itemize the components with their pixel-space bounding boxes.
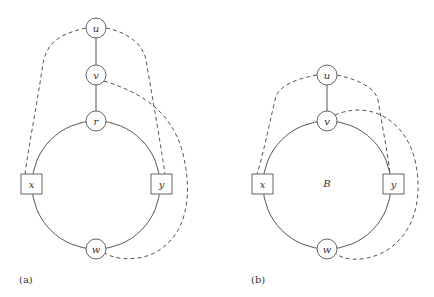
dashed-edge-u-x bbox=[257, 75, 317, 174]
svg-text:w: w bbox=[323, 244, 332, 255]
diagram-canvas: u v r x y w (a) bbox=[0, 0, 434, 297]
node-r: r bbox=[86, 111, 106, 131]
panel-a: u v r x y w (a) bbox=[19, 18, 187, 285]
svg-text:u: u bbox=[324, 70, 330, 81]
dashed-edge-v-w bbox=[335, 110, 418, 259]
dashed-edge-u-x bbox=[25, 28, 86, 174]
node-v: v bbox=[86, 65, 106, 85]
caption-b: (b) bbox=[251, 274, 265, 285]
svg-text:u: u bbox=[93, 23, 99, 34]
dashed-edge-u-y bbox=[337, 75, 390, 174]
node-y: y bbox=[151, 174, 172, 194]
svg-text:w: w bbox=[92, 244, 101, 255]
node-w: w bbox=[86, 239, 106, 259]
dashed-edge-u-y bbox=[106, 28, 165, 174]
svg-text:v: v bbox=[324, 116, 330, 127]
region-label-b: B bbox=[322, 178, 330, 189]
svg-text:y: y bbox=[158, 179, 165, 190]
svg-text:x: x bbox=[29, 179, 35, 190]
cycle-a bbox=[32, 121, 160, 249]
dashed-edge-v-w bbox=[104, 81, 187, 259]
svg-text:x: x bbox=[260, 179, 266, 190]
svg-text:y: y bbox=[390, 179, 397, 190]
caption-a: (a) bbox=[19, 274, 33, 285]
node-y: y bbox=[383, 174, 404, 194]
node-u: u bbox=[86, 18, 106, 38]
panel-b: u v x y w B (b) bbox=[251, 65, 418, 285]
node-v: v bbox=[317, 111, 337, 131]
node-u: u bbox=[317, 65, 337, 85]
node-x: x bbox=[21, 174, 42, 194]
node-w: w bbox=[317, 239, 337, 259]
node-x: x bbox=[252, 174, 273, 194]
svg-text:v: v bbox=[93, 70, 99, 81]
